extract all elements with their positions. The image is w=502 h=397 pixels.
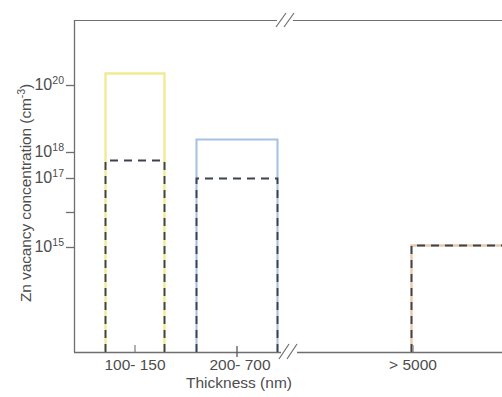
bar-group-200-700[interactable] [197,140,278,353]
y-axis-title: Zn vacancy concentration (cm-3) [17,33,35,353]
bar-dashed-outline-100-150 [106,161,165,353]
x-tick-label-gt-5000: > 5000 [389,356,437,374]
bar-dashed-outline-gt-5000 [412,246,502,353]
x-tick-marks [135,345,413,357]
x-tick-label-100-150: 100- 150 [104,356,165,374]
x-tick-label-200-700: 200- 700 [209,356,270,374]
plot-area [0,0,502,397]
bar-group-100-150[interactable] [106,74,165,353]
x-axis-title: Thickness (nm) [74,374,404,392]
chart-figure: 1020 1018 1017 1015 100- 150 200- 700 > … [0,0,502,397]
bar-group-gt-5000[interactable] [412,246,502,353]
bar-dashed-outline-200-700 [197,179,278,353]
bar-solid-outline-gt-5000 [412,246,502,353]
bar-solid-outline-200-700 [197,140,278,353]
axis-break-top-icon [276,13,294,27]
y-tick-marks [66,86,75,248]
axis-break-bottom-icon [279,344,297,359]
axis-frame [74,20,502,353]
bar-solid-outline-100-150 [106,74,165,353]
